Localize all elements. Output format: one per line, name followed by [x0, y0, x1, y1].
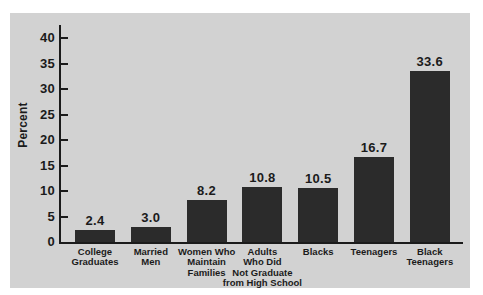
bar — [354, 157, 394, 242]
bar — [298, 188, 338, 242]
bar-chart-figure: Percent 05101520253035402.4CollegeGradua… — [0, 0, 483, 295]
x-axis-line — [59, 242, 463, 244]
bar-value-label: 33.6 — [400, 55, 460, 69]
y-tick-label: 35 — [17, 56, 55, 72]
y-tick-mark — [61, 37, 68, 39]
bar — [75, 230, 115, 242]
bar-value-label: 2.4 — [65, 214, 125, 228]
y-tick-label: 40 — [17, 30, 55, 46]
y-tick-label: 10 — [17, 183, 55, 199]
y-tick-mark — [61, 63, 68, 65]
y-tick-label: 25 — [17, 107, 55, 123]
bar — [131, 227, 171, 242]
y-tick-mark — [61, 190, 68, 192]
bar-value-label: 8.2 — [177, 184, 237, 198]
y-tick-mark — [61, 88, 68, 90]
y-tick-mark — [61, 114, 68, 116]
bar-value-label: 3.0 — [121, 211, 181, 225]
bar — [410, 71, 450, 242]
y-axis-line — [59, 25, 61, 244]
bar-category-label-line: Teenagers — [384, 257, 476, 267]
bar-value-label: 16.7 — [344, 141, 404, 155]
y-tick-label: 30 — [17, 81, 55, 97]
y-tick-mark — [61, 139, 68, 141]
bar-value-label: 10.8 — [232, 171, 292, 185]
bar — [187, 200, 227, 242]
bar-category-label: BlackTeenagers — [384, 247, 476, 268]
bar-category-label-line: from High School — [216, 278, 308, 288]
y-tick-label: 15 — [17, 158, 55, 174]
y-tick-mark — [61, 165, 68, 167]
bar-value-label: 10.5 — [288, 172, 348, 186]
y-tick-label: 5 — [17, 209, 55, 225]
y-tick-label: 20 — [17, 132, 55, 148]
bar — [242, 187, 282, 242]
